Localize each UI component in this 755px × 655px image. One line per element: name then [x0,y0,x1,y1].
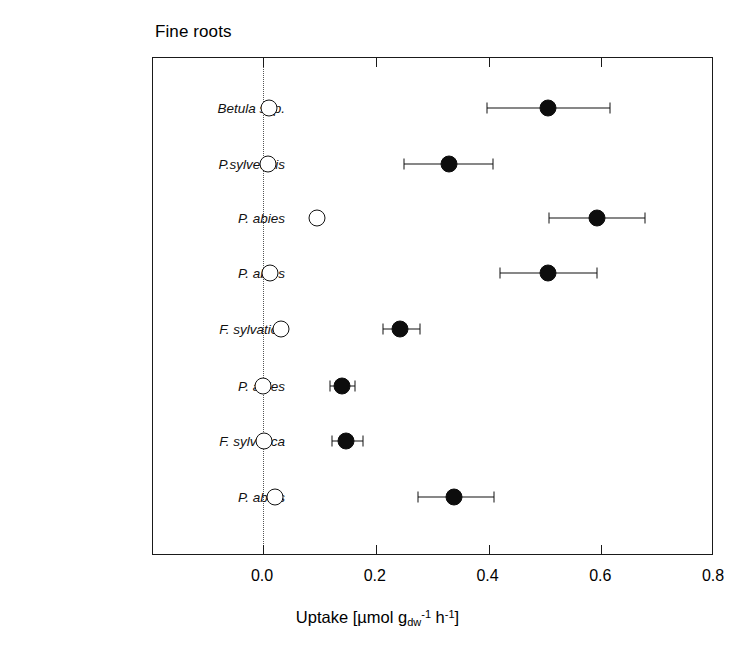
x-tick-top [263,58,264,67]
x-tick-top [601,58,602,67]
nh4-data-point [441,156,458,173]
x-tick-top [489,58,490,67]
x-tick-label: 0.8 [702,567,724,585]
no3-data-point [267,489,284,506]
no3-data-point [308,210,325,227]
error-bar-cap [354,381,355,392]
nh4-data-point [338,433,355,450]
error-bar-cap [363,436,364,447]
figure-root: Fine roots ÅhedenKlosterhedeSchachtWalds… [0,0,755,655]
species-label: P. abies [167,211,285,226]
error-bar-cap [487,103,488,114]
nh4-data-point [391,321,408,338]
error-bar-cap [549,213,550,224]
x-tick-label: 0.0 [251,567,273,585]
error-bar-cap [609,103,610,114]
error-bar-cap [596,268,597,279]
error-bar-cap [499,268,500,279]
no3-data-point [273,321,290,338]
nh4-data-point [588,210,605,227]
species-label: F. sylvatica [167,322,285,337]
no3-data-point [255,378,272,395]
x-tick-label: 0.4 [476,567,498,585]
error-bar-cap [329,381,330,392]
error-bar-cap [383,324,384,335]
x-axis-title: Uptake [µmol gdw-1 h-1] [0,608,755,628]
error-bar-cap [418,492,419,503]
no3-data-point [259,156,276,173]
nh4-data-point [539,100,556,117]
x-tick-bottom [263,545,264,554]
error-bar-cap [403,159,404,170]
chart-title: Fine roots [155,22,232,42]
x-tick-bottom [376,545,377,554]
x-tick-top [376,58,377,67]
plot-area: Betula spp.P.sylvestrisP. abiesP. abiesF… [152,57,713,555]
error-bar-cap [645,213,646,224]
zero-reference-line [263,58,264,554]
x-tick-label: 0.2 [364,567,386,585]
nh4-data-point [539,265,556,282]
x-tick-bottom [489,545,490,554]
nh4-data-point [333,378,350,395]
no3-data-point [261,265,278,282]
no3-data-point [260,100,277,117]
error-bar-cap [494,492,495,503]
x-tick-bottom [601,545,602,554]
x-tick-label: 0.6 [589,567,611,585]
error-bar-cap [493,159,494,170]
nh4-data-point [445,489,462,506]
error-bar-cap [332,436,333,447]
no3-data-point [256,433,273,450]
error-bar-cap [419,324,420,335]
